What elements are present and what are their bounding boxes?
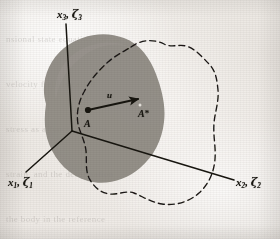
displacement-vector-label: u — [107, 90, 112, 100]
point-A-star-label-asterisk: * — [145, 108, 150, 118]
axis-label-x1: x1, ζ1 — [8, 176, 33, 190]
displacement-vector-label-text: u — [107, 90, 112, 100]
point-A-label: A — [84, 118, 91, 129]
axis-label-x2-zeta-sub: 2 — [257, 182, 261, 190]
axis-label-x2: x2, ζ2 — [236, 176, 261, 190]
axis-label-x3-zeta-sub: 3 — [78, 14, 82, 22]
point-A-star-marker — [139, 104, 142, 107]
point-A-star-label-text: A — [138, 108, 145, 119]
figure-drawing — [0, 0, 280, 239]
point-A-star-label: A* — [138, 108, 149, 119]
axis-label-x3: x3, ζ3 — [57, 8, 82, 22]
axis-label-x1-zeta-sub: 1 — [29, 182, 33, 190]
point-A-label-text: A — [84, 118, 91, 129]
point-A-marker — [85, 107, 91, 113]
figure-container: nsional state equation for the velocity … — [0, 0, 280, 239]
